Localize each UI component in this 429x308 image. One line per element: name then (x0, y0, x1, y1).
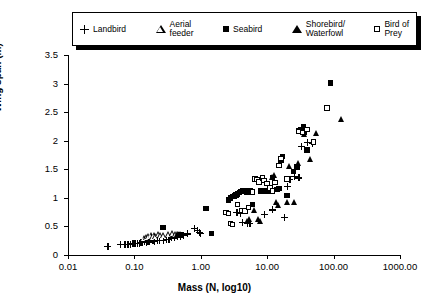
data-point-bird-of-prey (284, 176, 290, 182)
x-axis-tick: 0.01 (68, 255, 69, 259)
data-point-shorebird-waterfowl (284, 199, 290, 205)
data-point-bird-of-prey (230, 222, 236, 228)
data-point-seabird (209, 231, 215, 237)
legend-entry-shorebird-waterfowl: Shorebird/ Waterfowl (292, 20, 345, 38)
x-axis-tick: 1000.00 (400, 255, 401, 259)
legend-label-seabird: Seabird (233, 25, 262, 34)
y-axis-tick-label: 3 (53, 78, 58, 89)
x-axis-tick: 100.00 (334, 255, 335, 259)
data-point-shorebird-waterfowl (257, 218, 263, 224)
x-axis-line: 0.010.101.0010.00100.001000.00 (68, 255, 401, 256)
scatter-chart-figure: Landbird Aerial feeder Seabird Shorebird… (0, 0, 429, 308)
data-point-seabird (160, 225, 166, 231)
x-axis-tick-label: 1.00 (192, 261, 211, 272)
data-point-seabird (276, 186, 282, 192)
data-point-shorebird-waterfowl (291, 199, 297, 205)
data-point-landbird (197, 230, 204, 237)
filled-square-marker-icon (223, 26, 229, 32)
legend-entry-aerial-feeder: Aerial feeder (156, 20, 194, 38)
x-axis-tick-label: 1000.00 (383, 261, 417, 272)
data-point-bird-of-prey (226, 211, 232, 217)
x-axis-title: Mass (N, log10) (0, 282, 429, 293)
legend-entry-seabird: Seabird (223, 25, 262, 34)
open-square-marker-icon (374, 26, 380, 32)
data-point-seabird (304, 147, 310, 153)
data-point-bird-of-prey (278, 156, 284, 162)
filled-triangle-marker-icon (292, 25, 302, 33)
data-point-bird-of-prey (304, 127, 310, 133)
x-axis-tick-label: 10.00 (255, 261, 279, 272)
data-point-shorebird-waterfowl (313, 130, 319, 136)
legend-label-bird-of-prey: Bird of Prey (384, 20, 409, 38)
y-axis-tick-label: 0 (53, 249, 58, 260)
x-axis-tick: 10.00 (267, 255, 268, 259)
data-point-bird-of-prey (324, 105, 330, 111)
y-axis-tick-label: 2 (53, 135, 58, 146)
legend-label-landbird: Landbird (93, 25, 126, 34)
y-axis-tick-label: 0.5 (45, 220, 58, 231)
chart-legend: Landbird Aerial feeder Seabird Shorebird… (72, 12, 417, 46)
x-axis-tick: 1.00 (201, 255, 202, 259)
x-axis-tick-label: 0.01 (59, 261, 78, 272)
plot-area (68, 55, 400, 255)
x-axis-tick: 0.10 (134, 255, 135, 259)
x-axis-tick-label: 100.00 (319, 261, 348, 272)
data-point-landbird (281, 214, 288, 221)
data-point-shorebird-waterfowl (246, 216, 252, 222)
y-axis-tick-label: 3.5 (45, 49, 58, 60)
y-axis-tick-label: 1.5 (45, 163, 58, 174)
data-point-landbird (104, 243, 111, 250)
open-triangle-marker-icon (156, 25, 166, 33)
data-point-shorebird-waterfowl (177, 232, 183, 238)
data-point-bird-of-prey (246, 205, 252, 211)
x-axis-tick-label: 0.10 (125, 261, 144, 272)
data-point-shorebird-waterfowl (275, 202, 281, 208)
plus-marker-icon (80, 25, 89, 34)
data-point-bird-of-prey (270, 188, 276, 194)
data-point-shorebird-waterfowl (338, 116, 344, 122)
data-point-shorebird-waterfowl (295, 160, 301, 166)
data-point-seabird (284, 193, 290, 199)
data-point-bird-of-prey (276, 163, 282, 169)
legend-label-shorebird-waterfowl: Shorebird/ Waterfowl (306, 20, 345, 38)
data-point-shorebird-waterfowl (286, 163, 292, 169)
data-point-shorebird-waterfowl (307, 156, 313, 162)
data-point-bird-of-prey (250, 189, 256, 195)
data-point-landbird (184, 230, 191, 237)
data-point-landbird (295, 174, 302, 181)
data-point-shorebird-waterfowl (251, 207, 257, 213)
y-axis-tick-label: 2.5 (45, 106, 58, 117)
legend-entry-bird-of-prey: Bird of Prey (374, 20, 409, 38)
data-point-bird-of-prey (235, 202, 241, 208)
data-point-bird-of-prey (311, 139, 317, 145)
legend-entry-landbird: Landbird (80, 25, 126, 34)
y-axis-tick-label: 1 (53, 192, 58, 203)
y-axis-title: Wing span (m) (0, 43, 3, 112)
data-point-shorebird-waterfowl (271, 172, 277, 178)
data-point-landbird (284, 183, 291, 190)
data-point-bird-of-prey (272, 180, 278, 186)
data-point-seabird (203, 206, 209, 212)
data-point-seabird (328, 80, 334, 86)
legend-label-aerial-feeder: Aerial feeder (170, 20, 194, 38)
